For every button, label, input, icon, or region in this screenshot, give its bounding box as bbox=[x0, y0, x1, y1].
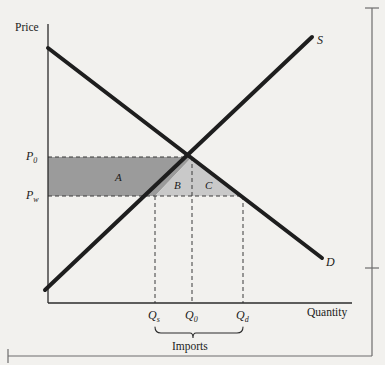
quantity-tick-qd-base: Q bbox=[236, 308, 245, 322]
price-tick-pw: Pw bbox=[26, 189, 39, 204]
supply-curve-label: S bbox=[317, 34, 323, 46]
price-tick-p0-sub: 0 bbox=[33, 156, 37, 165]
demand-curve-label: D bbox=[326, 256, 335, 268]
region-label-a: A bbox=[115, 172, 122, 183]
quantity-tick-qd: Qd bbox=[236, 309, 249, 324]
region-label-b: B bbox=[174, 180, 181, 191]
x-axis-title: Quantity bbox=[307, 307, 347, 319]
quantity-tick-qs-sub: s bbox=[157, 315, 160, 324]
quantity-tick-qs: Qs bbox=[148, 309, 160, 324]
quantity-tick-qs-base: Q bbox=[148, 308, 157, 322]
quantity-tick-q0: Q0 bbox=[185, 309, 198, 324]
region-label-c: C bbox=[205, 180, 212, 191]
price-tick-p0: P0 bbox=[26, 150, 37, 165]
imports-brace-label: Imports bbox=[172, 341, 208, 353]
quantity-tick-q0-sub: 0 bbox=[194, 315, 198, 324]
quantity-tick-q0-base: Q bbox=[185, 308, 194, 322]
quantity-tick-qd-sub: d bbox=[245, 315, 249, 324]
price-tick-pw-sub: w bbox=[33, 195, 38, 204]
y-axis-title: Price bbox=[15, 22, 39, 34]
